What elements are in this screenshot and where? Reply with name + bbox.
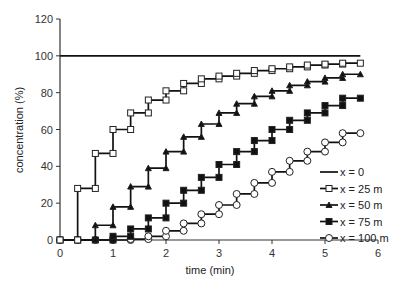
open-circle-marker [216, 211, 223, 218]
open-circle-marker [304, 157, 311, 164]
x-tick-label: 2 [163, 247, 169, 259]
y-tick-label: 100 [35, 50, 53, 62]
open-circle-marker [322, 139, 329, 146]
legend-item: x = 0 [320, 166, 364, 178]
filled-square-marker [322, 103, 328, 109]
filled-square-marker [234, 149, 240, 155]
series-x-100-m [57, 130, 364, 244]
filled-square-marker [181, 187, 187, 193]
filled-square-marker [322, 110, 328, 116]
open-square-marker [198, 76, 204, 82]
filled-square-marker [251, 138, 257, 144]
x-tick-label: 6 [375, 247, 381, 259]
open-circle-marker [286, 157, 293, 164]
open-square-marker [75, 185, 81, 191]
x-tick-label: 0 [57, 247, 63, 259]
open-circle-marker [269, 179, 276, 186]
y-axis-title: concentration (%) [13, 87, 25, 173]
open-square-marker [251, 68, 257, 74]
open-circle-marker [198, 220, 205, 227]
open-circle-marker [180, 220, 187, 227]
legend-label: x = 100 m [340, 232, 389, 244]
series-line [60, 98, 360, 240]
open-circle-marker [304, 148, 311, 155]
open-square-marker [145, 110, 151, 116]
legend-item: x = 100 m [320, 232, 389, 244]
open-circle-marker [322, 148, 329, 155]
legend-item: x = 25 m [320, 183, 383, 195]
filled-square-marker [251, 149, 257, 155]
open-square-marker [75, 237, 81, 243]
y-tick-label: 20 [41, 197, 53, 209]
legend-label: x = 50 m [340, 199, 383, 211]
series-line [60, 133, 360, 240]
filled-square-marker [198, 187, 204, 193]
series-x-50-m [57, 71, 363, 242]
x-tick-label: 4 [269, 247, 275, 259]
open-square-marker [216, 73, 222, 79]
y-tick-label: 60 [41, 124, 53, 136]
filled-square-marker [110, 233, 116, 239]
filled-square-marker [340, 103, 346, 109]
legend-item: x = 50 m [320, 199, 383, 211]
open-square-marker [110, 150, 116, 156]
filled-square-marker [128, 233, 134, 239]
open-square-marker [110, 127, 116, 133]
filled-square-marker [128, 226, 134, 232]
open-circle-marker [163, 227, 170, 234]
open-circle-marker [357, 130, 364, 137]
concentration-chart: 0204060801001200123456 x = 0x = 25 mx = … [0, 0, 397, 293]
open-square-marker [340, 60, 346, 66]
open-square-marker [92, 185, 98, 191]
open-circle-marker [216, 202, 223, 209]
open-square-marker [57, 237, 63, 243]
x-tick-label: 1 [110, 247, 116, 259]
filled-square-marker [216, 161, 222, 167]
open-circle-marker [145, 233, 152, 240]
series-x-75-m [57, 95, 363, 243]
open-square-marker [287, 64, 293, 70]
filled-square-marker [145, 226, 151, 232]
y-tick-label: 80 [41, 87, 53, 99]
filled-square-marker [269, 138, 275, 144]
legend-item: x = 75 m [320, 216, 383, 228]
filled-square-marker [287, 117, 293, 123]
open-circle-marker [198, 211, 205, 218]
legend-label: x = 75 m [340, 216, 383, 228]
open-square-marker [128, 127, 134, 133]
filled-square-marker [198, 174, 204, 180]
open-circle-marker [251, 190, 258, 197]
filled-square-marker [163, 215, 169, 221]
filled-square-marker [269, 127, 275, 133]
filled-square-marker [326, 219, 332, 225]
plot-area [57, 56, 364, 244]
filled-square-marker [340, 95, 346, 101]
legend-label: x = 25 m [340, 183, 383, 195]
filled-square-marker [216, 174, 222, 180]
x-axis-title: time (min) [186, 264, 235, 276]
open-square-marker [234, 70, 240, 76]
filled-square-marker [304, 117, 310, 123]
open-square-marker [326, 186, 332, 192]
filled-square-marker [181, 200, 187, 206]
open-square-marker [322, 61, 328, 67]
open-square-marker [181, 80, 187, 86]
open-square-marker [357, 60, 363, 66]
y-tick-label: 40 [41, 160, 53, 172]
open-square-marker [145, 97, 151, 103]
open-circle-marker [233, 190, 240, 197]
open-circle-marker [251, 179, 258, 186]
filled-square-marker [287, 127, 293, 133]
open-square-marker [269, 66, 275, 72]
open-square-marker [163, 88, 169, 94]
open-square-marker [128, 110, 134, 116]
open-square-marker [92, 150, 98, 156]
x-tick-label: 3 [216, 247, 222, 259]
open-square-marker [181, 88, 187, 94]
open-circle-marker [339, 130, 346, 137]
filled-square-marker [145, 215, 151, 221]
open-circle-marker [180, 227, 187, 234]
open-circle-marker [269, 168, 276, 175]
y-tick-label: 120 [35, 13, 53, 25]
legend: x = 0x = 25 mx = 50 mx = 75 mx = 100 m [320, 166, 389, 244]
